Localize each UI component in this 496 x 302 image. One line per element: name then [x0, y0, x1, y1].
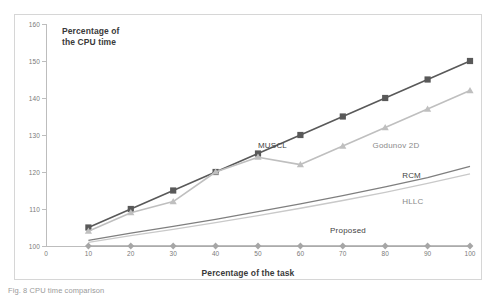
series-label-godunov-2d: Godunov 2D: [372, 141, 419, 150]
series-label-rcm: RCM: [402, 171, 421, 180]
series-marker: [170, 243, 177, 250]
series-marker: [382, 95, 388, 101]
series-marker: [339, 243, 346, 250]
series-marker: [85, 243, 92, 250]
series-marker: [467, 58, 473, 64]
series-marker: [467, 243, 474, 250]
series-proposed: [85, 243, 473, 250]
series-marker: [425, 76, 431, 82]
series-marker: [466, 87, 473, 93]
figure-caption: Fig. 8 CPU time comparison: [8, 286, 104, 295]
series-label-hllc: HLLC: [402, 197, 423, 206]
series-marker: [424, 243, 431, 250]
series-marker: [170, 187, 176, 193]
series-plot: [0, 0, 496, 302]
series-label-muscl: MUSCL: [258, 141, 287, 150]
figure-container: 100110120130140150160 010203040506070809…: [0, 0, 496, 302]
series-marker: [340, 113, 346, 119]
series-marker: [255, 243, 262, 250]
series-marker: [212, 243, 219, 250]
series-marker: [297, 243, 304, 250]
series-marker: [382, 243, 389, 250]
series-marker: [127, 243, 134, 250]
series-label-proposed: Proposed: [330, 226, 366, 235]
series-line: [88, 91, 470, 232]
series-marker: [297, 132, 303, 138]
